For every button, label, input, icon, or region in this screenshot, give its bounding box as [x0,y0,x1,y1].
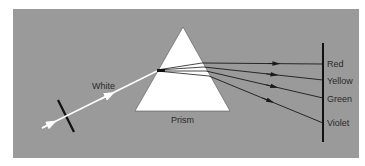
green-ray [206,71,323,98]
violet-label: Violet [327,118,350,128]
green-label: Green [327,94,352,104]
incident-ray [42,71,157,128]
yellow-ray [204,67,323,80]
white-label: White [92,81,115,91]
red-label: Red [327,59,344,69]
prism-label: Prism [171,115,194,125]
prism [135,27,230,111]
violet-ray [209,76,323,123]
red-ray [202,63,323,64]
prism-dispersion-diagram: White Prism Red Yellow Green Violet [0,0,365,166]
yellow-label: Yellow [327,76,353,86]
